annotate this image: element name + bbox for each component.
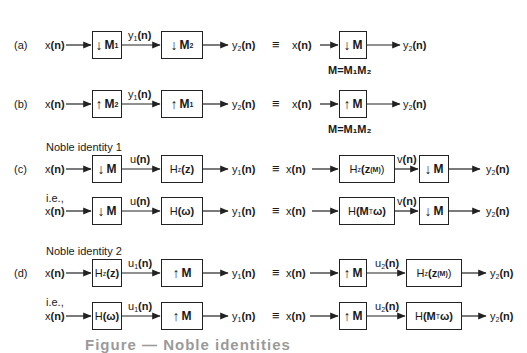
row-d2-rhs-output: y2(n)	[490, 310, 513, 326]
upsampler-m-box: ↑M	[339, 90, 367, 118]
downsampler-m1-box: ↓M1	[92, 31, 122, 59]
filter-hz-zm-box: Hz(z(M))	[406, 259, 462, 287]
down-arrow-icon: ↓	[98, 205, 105, 217]
down-arrow-icon: ↓	[96, 39, 103, 51]
row-c1-mid-signal: u(n)	[130, 153, 150, 165]
row-c1-rhs-mid-signal: v(n)	[397, 153, 417, 165]
downsampler-m-box: ↓M	[92, 197, 122, 225]
row-b-note: M=M₁M₂	[328, 123, 371, 135]
row-a-note: M=M₁M₂	[328, 64, 371, 76]
row-a-tag: (a)	[14, 39, 27, 51]
row-a-rhs-output: y2(n)	[403, 39, 426, 55]
row-c2-rhs-output: y2(n)	[486, 205, 509, 221]
up-arrow-icon: ↑	[344, 310, 351, 322]
equivalence-symbol: ≡	[272, 161, 280, 176]
upsampler-m-box: ↑M	[161, 302, 203, 330]
figure-caption: Figure — Noble identities	[85, 336, 291, 353]
up-arrow-icon: ↑	[96, 98, 103, 110]
row-d1-rhs-mid-signal: u2(n)	[375, 257, 399, 273]
row-c2-rhs-mid-signal: v(n)	[397, 195, 417, 207]
row-a-mid-signal: y1(n)	[128, 29, 151, 45]
down-arrow-icon: ↓	[425, 163, 432, 175]
row-c2-rhs-input: x(n)	[286, 205, 306, 217]
row-b-rhs-input: x(n)	[292, 98, 312, 110]
row-c2-mid-signal: u(n)	[130, 195, 150, 207]
noble-identity-1-heading: Noble identity 1	[46, 141, 122, 153]
row-a-rhs-input: x(n)	[292, 39, 312, 51]
equivalence-symbol: ≡	[272, 96, 280, 111]
row-d-tag: (d)	[14, 267, 27, 279]
row-c-tag: (c)	[14, 163, 27, 175]
row-b-mid-signal: y1(n)	[128, 88, 151, 104]
filter-hz-zm-box: Hz(z(M))	[339, 155, 395, 183]
equivalence-symbol: ≡	[272, 203, 280, 218]
row-b-rhs-output: y2(n)	[403, 98, 426, 114]
row-d2-mid-signal: u1(n)	[128, 300, 152, 316]
filter-h-omega-box: H(ω)	[92, 302, 122, 330]
row-a-input: x(n)	[45, 39, 65, 51]
upsampler-m-box: ↑M	[339, 302, 367, 330]
filter-h-mt-omega-box: H(MTω)	[339, 197, 395, 225]
upsampler-m-box: ↑M	[161, 259, 203, 287]
upsampler-m2-box: ↑M2	[92, 90, 122, 118]
row-c1-rhs-input: x(n)	[286, 163, 306, 175]
up-arrow-icon: ↑	[171, 98, 178, 110]
row-c2-output: y1(n)	[232, 205, 255, 221]
row-d2-input: x(n)	[45, 310, 65, 322]
row-c2-input: x(n)	[45, 205, 65, 217]
up-arrow-icon: ↑	[173, 267, 180, 279]
downsampler-m-box: ↓M	[339, 31, 367, 59]
row-b-tag: (b)	[14, 98, 27, 110]
downsampler-m-box: ↓M	[419, 197, 449, 225]
upsampler-m1-box: ↑M1	[161, 90, 203, 118]
row-b-input: x(n)	[45, 98, 65, 110]
downsampler-m2-box: ↓M2	[161, 31, 203, 59]
row-c1-rhs-output: y2(n)	[486, 163, 509, 179]
up-arrow-icon: ↑	[173, 310, 180, 322]
row-d1-input: x(n)	[45, 267, 65, 279]
row-c-ie-label: i.e.,	[46, 192, 64, 204]
down-arrow-icon: ↓	[98, 163, 105, 175]
down-arrow-icon: ↓	[171, 39, 178, 51]
row-a-output: y2(n)	[232, 39, 255, 55]
down-arrow-icon: ↓	[344, 39, 351, 51]
row-d1-output: y1(n)	[232, 267, 255, 283]
downsampler-m-box: ↓M	[92, 155, 122, 183]
filter-hz-box: Hz(z)	[161, 155, 203, 183]
filter-h-omega-box: H(ω)	[161, 197, 203, 225]
row-d2-rhs-mid-signal: u2(n)	[375, 300, 399, 316]
up-arrow-icon: ↑	[344, 98, 351, 110]
row-c1-output: y1(n)	[232, 163, 255, 179]
equivalence-symbol: ≡	[272, 308, 280, 323]
row-d1-mid-signal: u1(n)	[128, 257, 152, 273]
upsampler-m-box: ↑M	[339, 259, 367, 287]
down-arrow-icon: ↓	[425, 205, 432, 217]
up-arrow-icon: ↑	[344, 267, 351, 279]
row-d1-rhs-input: x(n)	[286, 267, 306, 279]
filter-h-mt-omega-box: H(MTω)	[406, 302, 462, 330]
row-b-output: y2(n)	[232, 98, 255, 114]
filter-hz-box: Hz(z)	[92, 259, 122, 287]
equivalence-symbol: ≡	[272, 37, 280, 52]
equivalence-symbol: ≡	[272, 265, 280, 280]
row-d2-rhs-input: x(n)	[286, 310, 306, 322]
row-d2-output: y1(n)	[232, 310, 255, 326]
row-c1-input: x(n)	[45, 163, 65, 175]
row-d-ie-label: i.e.,	[46, 296, 64, 308]
downsampler-m-box: ↓M	[419, 155, 449, 183]
row-d1-rhs-output: y2(n)	[490, 267, 513, 283]
noble-identity-2-heading: Noble identity 2	[46, 245, 122, 257]
